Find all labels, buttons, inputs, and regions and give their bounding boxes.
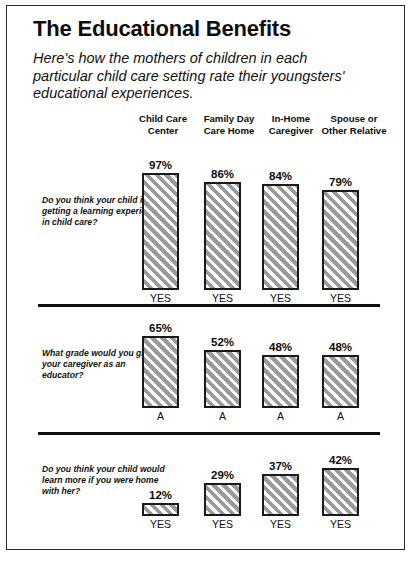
page-title: The Educational Benefits bbox=[33, 16, 291, 42]
bar-value-1-4: 79% bbox=[329, 176, 352, 188]
bar-value-2-2: 52% bbox=[211, 336, 234, 348]
bar-group-1: 97% YES 86% YES 84% YES 79% YES bbox=[0, 145, 417, 290]
bar-value-1-1: 97% bbox=[149, 159, 172, 171]
bar-axis-label-3-3: YES bbox=[270, 518, 291, 530]
bar-value-2-1: 65% bbox=[149, 322, 172, 334]
bar-axis-label-1-2: YES bbox=[212, 292, 233, 304]
bar-value-3-1: 12% bbox=[149, 489, 172, 501]
column-header-spouse-other-relative: Spouse or Other Relative bbox=[317, 113, 391, 136]
section-learn-more-at-home: Do you think your child would learn more… bbox=[0, 446, 417, 516]
page-subtitle: Here's how the mothers of children in ea… bbox=[33, 50, 363, 103]
column-header-in-home-caregiver: In-Home Caregiver bbox=[262, 113, 320, 136]
bar-rect-2-2 bbox=[204, 350, 241, 408]
column-headers: Child Care Center Family Day Care Home I… bbox=[131, 113, 381, 139]
bar-axis-label-1-1: YES bbox=[150, 292, 171, 304]
bar-axis-label-3-4: YES bbox=[330, 518, 351, 530]
bar-column-1-1: 97% YES bbox=[142, 145, 179, 290]
section-divider-2 bbox=[38, 432, 380, 435]
column-header-child-care-center: Child Care Center bbox=[131, 113, 195, 136]
bar-column-3-2: 29% YES bbox=[204, 446, 241, 516]
bar-column-2-1: 65% A bbox=[142, 318, 179, 408]
section-divider-1 bbox=[38, 304, 380, 307]
bar-column-1-4: 79% YES bbox=[322, 145, 359, 290]
section-caregiver-grade: What grade would you give your caregiver… bbox=[0, 318, 417, 408]
bar-rect-3-1 bbox=[142, 503, 179, 516]
bar-value-3-3: 37% bbox=[269, 460, 292, 472]
bar-group-3: 12% YES 29% YES 37% YES 42% YES bbox=[0, 446, 417, 516]
bar-rect-1-1 bbox=[142, 173, 179, 290]
column-header-family-day-care-home: Family Day Care Home bbox=[194, 113, 264, 136]
bar-rect-3-2 bbox=[204, 483, 241, 516]
bar-axis-label-3-2: YES bbox=[212, 518, 233, 530]
infographic: The Educational Benefits Here's how the … bbox=[0, 0, 417, 563]
bar-column-3-4: 42% YES bbox=[322, 446, 359, 516]
bar-rect-2-3 bbox=[262, 355, 299, 408]
bar-column-2-4: 48% A bbox=[322, 318, 359, 408]
bar-group-2: 65% A 52% A 48% A 48% A bbox=[0, 318, 417, 408]
bar-value-1-2: 86% bbox=[211, 168, 234, 180]
bar-column-2-2: 52% A bbox=[204, 318, 241, 408]
bar-column-2-3: 48% A bbox=[262, 318, 299, 408]
bar-column-3-1: 12% YES bbox=[142, 446, 179, 516]
bar-axis-label-2-2: A bbox=[219, 410, 226, 422]
section-learning-experience: Do you think your child is getting a lea… bbox=[0, 145, 417, 290]
bar-value-3-2: 29% bbox=[211, 469, 234, 481]
bar-axis-label-1-4: YES bbox=[330, 292, 351, 304]
bar-rect-3-3 bbox=[262, 474, 299, 516]
bar-rect-1-3 bbox=[262, 184, 299, 290]
bar-column-1-2: 86% YES bbox=[204, 145, 241, 290]
bar-axis-label-2-3: A bbox=[277, 410, 284, 422]
bar-axis-label-3-1: YES bbox=[150, 518, 171, 530]
bar-rect-2-4 bbox=[322, 355, 359, 408]
bar-value-1-3: 84% bbox=[269, 170, 292, 182]
bar-rect-2-1 bbox=[142, 336, 179, 408]
bar-axis-label-2-4: A bbox=[337, 410, 344, 422]
bar-column-1-3: 84% YES bbox=[262, 145, 299, 290]
bar-rect-3-4 bbox=[322, 468, 359, 516]
bar-column-3-3: 37% YES bbox=[262, 446, 299, 516]
bar-axis-label-2-1: A bbox=[157, 410, 164, 422]
bar-value-2-3: 48% bbox=[269, 341, 292, 353]
bar-axis-label-1-3: YES bbox=[270, 292, 291, 304]
bar-rect-1-2 bbox=[204, 182, 241, 290]
bar-rect-1-4 bbox=[322, 190, 359, 290]
bar-value-3-4: 42% bbox=[329, 454, 352, 466]
bar-value-2-4: 48% bbox=[329, 341, 352, 353]
